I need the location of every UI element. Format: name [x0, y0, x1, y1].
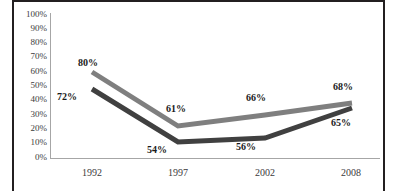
- data-label-lower-1992: 72%: [57, 92, 77, 102]
- data-label-upper-1992: 80%: [78, 58, 98, 68]
- data-label-upper-1997: 61%: [166, 104, 186, 114]
- x-tick-2008: 2008: [321, 167, 381, 178]
- data-label-upper-2002: 66%: [246, 93, 266, 103]
- chart-figure: 100% 90% 80% 70% 60% 50% 40% 30% 20% 10%…: [0, 0, 406, 191]
- x-tick-1992: 1992: [62, 167, 122, 178]
- data-label-lower-2008: 65%: [331, 118, 351, 128]
- series-line-upper: [92, 72, 352, 126]
- data-label-upper-2008: 68%: [333, 82, 353, 92]
- data-label-lower-2002: 56%: [236, 142, 256, 152]
- data-label-lower-1997: 54%: [147, 145, 167, 155]
- x-tick-1997: 1997: [148, 167, 208, 178]
- x-tick-2002: 2002: [235, 167, 295, 178]
